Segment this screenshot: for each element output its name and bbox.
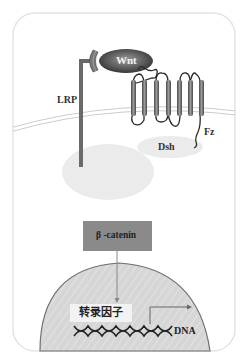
lrp-label: LRP <box>57 95 77 105</box>
transcription-factor-label: 转录因子 <box>79 307 123 318</box>
beta-catenin-label: β -catenin <box>96 231 136 241</box>
fz-label: Fz <box>204 127 215 137</box>
dna-label: DNA <box>174 326 196 336</box>
destruction-complex <box>62 144 154 200</box>
dsh-label: Dsh <box>158 142 175 152</box>
wnt-label: Wnt <box>116 55 137 66</box>
